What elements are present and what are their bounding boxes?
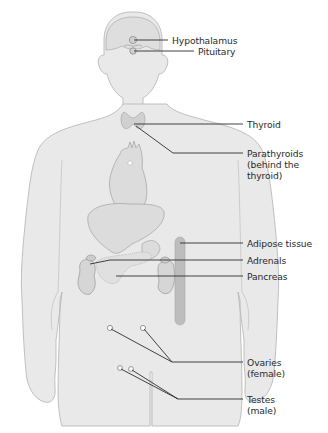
label-testes-1: Testes [247,394,275,405]
label-ovaries-1: Ovaries [247,357,281,368]
label-ovaries-2: (female) [247,368,285,379]
kidney-right [158,260,175,293]
endocrine-diagram: Hypothalamus Pituitary Thyroid Parathyro… [0,0,328,433]
label-pituitary: Pituitary [198,46,235,57]
label-adrenals: Adrenals [247,255,286,266]
label-parathyroids-1: Parathyroids [247,148,303,159]
label-pancreas: Pancreas [247,271,287,282]
label-parathyroids-2: (behind the [247,159,299,170]
label-hypothalamus: Hypothalamus [172,35,237,46]
label-thyroid: Thyroid [247,119,281,130]
label-testes-2: (male) [247,405,276,416]
label-adipose: Adipose tissue [247,238,312,249]
label-parathyroids-3: thyroid) [247,170,282,181]
adipose-tissue [175,237,185,325]
adrenal-left [86,255,96,261]
kidney-left [78,259,95,294]
